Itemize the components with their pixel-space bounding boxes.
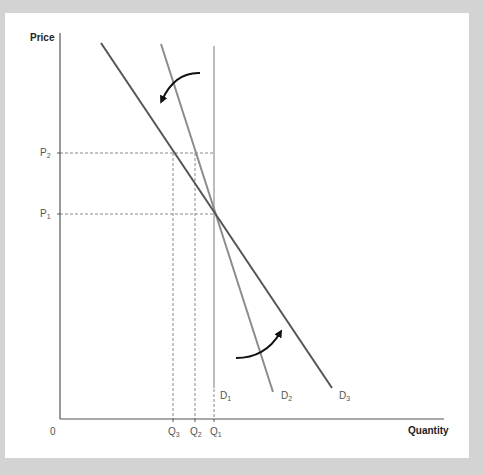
origin-label: 0 bbox=[50, 426, 56, 437]
x-axis-title: Quantity bbox=[408, 425, 449, 436]
y-tick-p1: P1 bbox=[40, 208, 51, 220]
x-tick-q2: Q2 bbox=[190, 426, 202, 438]
rotation-arrow-upper-icon bbox=[162, 73, 200, 100]
x-tick-q1: Q1 bbox=[210, 426, 222, 438]
x-tick-q3: Q3 bbox=[168, 426, 180, 438]
demand-diagram bbox=[0, 0, 484, 475]
curve-label-d2: D2 bbox=[281, 390, 292, 402]
curve-label-d3: D3 bbox=[339, 390, 350, 402]
demand-curve-d3 bbox=[101, 43, 332, 388]
y-tick-p2: P2 bbox=[40, 147, 51, 159]
curve-label-d1: D1 bbox=[220, 390, 231, 402]
y-axis-title: Price bbox=[30, 32, 54, 43]
